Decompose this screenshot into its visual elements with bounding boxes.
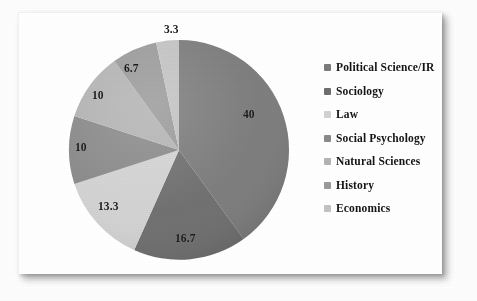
pie-value-label-social-psychology: 10 <box>75 141 87 153</box>
legend-item-sociology[interactable]: Sociology <box>324 80 442 104</box>
legend-swatch-icon <box>324 88 331 95</box>
legend-label: History <box>336 180 374 192</box>
legend-swatch-icon <box>324 205 331 212</box>
legend-label: Sociology <box>336 86 384 98</box>
legend: Political Science/IR Sociology Law Socia… <box>324 56 442 221</box>
legend-swatch-icon <box>324 64 331 71</box>
legend-item-law[interactable]: Law <box>324 103 442 127</box>
legend-label: Law <box>336 109 358 121</box>
legend-swatch-icon <box>324 158 331 165</box>
legend-swatch-icon <box>324 182 331 189</box>
scanned-page: 3.3 6.7 10 10 13.3 16.7 40 Political Sci… <box>0 0 477 301</box>
legend-item-history[interactable]: History <box>324 174 442 198</box>
legend-item-natural-sciences[interactable]: Natural Sciences <box>324 150 442 174</box>
legend-label: Natural Sciences <box>336 156 420 168</box>
pie-value-label-history: 6.7 <box>124 62 139 74</box>
pie-shading <box>69 40 289 260</box>
legend-label: Economics <box>336 203 390 215</box>
pie-chart: 3.3 6.7 10 10 13.3 16.7 40 <box>63 36 295 264</box>
legend-item-social-psychology[interactable]: Social Psychology <box>324 127 442 151</box>
legend-item-political-science-ir[interactable]: Political Science/IR <box>324 56 442 80</box>
pie-value-label-natural-sciences: 10 <box>92 89 104 101</box>
legend-label: Political Science/IR <box>336 62 435 74</box>
legend-label: Social Psychology <box>336 133 426 145</box>
figure-card: 3.3 6.7 10 10 13.3 16.7 40 Political Sci… <box>18 12 442 274</box>
pie-value-label-political-science-ir: 40 <box>243 108 255 120</box>
legend-swatch-icon <box>324 135 331 142</box>
pie-value-label-sociology: 16.7 <box>175 232 196 244</box>
legend-item-economics[interactable]: Economics <box>324 197 442 221</box>
pie-svg <box>63 36 295 264</box>
pie-value-label-economics: 3.3 <box>164 23 179 35</box>
legend-swatch-icon <box>324 111 331 118</box>
pie-value-label-law: 13.3 <box>98 200 119 212</box>
pie-canvas <box>63 36 295 264</box>
